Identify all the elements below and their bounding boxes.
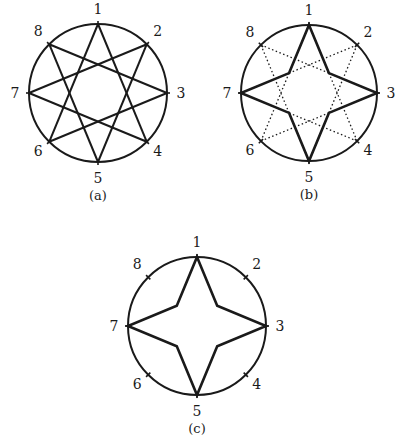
panel-caption: (b) <box>300 187 318 202</box>
point-label: 5 <box>305 169 314 185</box>
panel-caption: (a) <box>89 188 107 203</box>
panel-caption: (c) <box>188 421 205 436</box>
point-label: 1 <box>305 2 314 18</box>
panel-a: 12345678(a) <box>11 1 186 203</box>
point-label: 7 <box>11 85 20 101</box>
point-label: 8 <box>245 24 254 40</box>
point-label: 6 <box>133 376 142 392</box>
point-label: 8 <box>133 256 142 272</box>
point-label: 6 <box>34 143 43 159</box>
point-label: 4 <box>153 143 162 159</box>
point-label: 3 <box>177 85 186 101</box>
point-label: 6 <box>245 142 254 158</box>
panel-c: 12345678(c) <box>110 234 285 436</box>
point-label: 1 <box>193 234 202 250</box>
figure-canvas: 12345678(a) 12345678(b) 12345678(c) <box>0 0 397 448</box>
point-label: 2 <box>252 256 261 272</box>
point-label: 8 <box>34 23 43 39</box>
point-label: 2 <box>364 24 373 40</box>
point-label: 5 <box>94 170 103 186</box>
point-label: 4 <box>252 376 261 392</box>
point-label: 4 <box>364 142 373 158</box>
point-label: 7 <box>223 85 232 101</box>
point-label: 3 <box>276 318 285 334</box>
point-label: 1 <box>94 1 103 17</box>
panel-b: 12345678(b) <box>223 2 396 202</box>
point-label: 3 <box>387 85 396 101</box>
point-label: 2 <box>153 23 162 39</box>
point-label: 5 <box>193 403 202 419</box>
point-label: 7 <box>110 318 119 334</box>
